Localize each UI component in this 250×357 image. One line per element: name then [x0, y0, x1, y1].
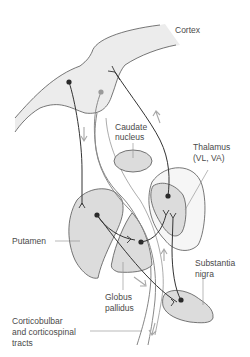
globus-pallidus-label-line1: Globus	[105, 292, 132, 302]
arrow-up-center	[161, 249, 167, 261]
caudate-label-line1: Caudate	[115, 122, 147, 132]
substantia-nigra-shape	[163, 290, 213, 322]
tracts-label-line1: Corticobulbar	[12, 316, 63, 326]
putamen-label: Putamen	[12, 236, 46, 246]
cortex-label: Cortex	[175, 25, 200, 35]
tracts-label-line2: and corticospinal	[12, 327, 76, 337]
arrow-down-left	[81, 127, 87, 141]
substantia-nigra-label-line1: Substantia	[195, 258, 235, 268]
caudate-label-line2: nucleus	[115, 132, 144, 142]
globus-pallidus-label-line2: pallidus	[105, 303, 134, 313]
arrow-up-right	[153, 111, 160, 123]
cortex-grey-neuron-body	[98, 89, 103, 94]
cortex-neuron-body	[66, 79, 71, 84]
arrow-down-diag	[134, 277, 146, 286]
substantia-nigra-label-line2: nigra	[195, 269, 214, 279]
tracts-label-line3: tracts	[12, 338, 33, 348]
thalamus-label-line1: Thalamus	[193, 142, 230, 152]
cortex-shape	[15, 24, 180, 132]
thalamus-label-line2: (VL, VA)	[193, 153, 225, 163]
thalamus-neuron-body	[165, 193, 170, 198]
